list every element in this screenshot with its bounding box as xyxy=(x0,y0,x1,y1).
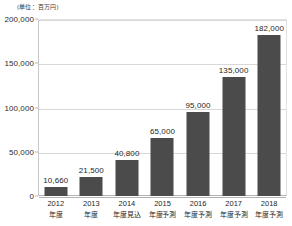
x-axis-tick-label: 2018年度予測 xyxy=(255,199,283,220)
bar[interactable] xyxy=(222,77,245,196)
x-axis-label-qualifier: 年度予測 xyxy=(255,210,283,221)
x-axis-label-qualifier: 年度予測 xyxy=(220,210,248,221)
x-axis-label-year: 2015 xyxy=(149,199,177,210)
unit-caption: (単位：百万円) xyxy=(17,2,59,11)
bar-slot: 182,000 xyxy=(251,19,287,196)
x-axis-label-year: 2018 xyxy=(255,199,283,210)
x-axis-tick-label: 2014年度見込 xyxy=(113,199,141,220)
bar[interactable] xyxy=(187,112,210,196)
bar-value-label: 10,660 xyxy=(43,176,68,185)
x-axis-label-year: 2014 xyxy=(113,199,141,210)
bar[interactable] xyxy=(258,35,281,196)
y-axis-tick-label: 200,000 xyxy=(4,15,34,24)
bar[interactable] xyxy=(80,177,103,196)
x-axis-label-year: 2013 xyxy=(83,199,100,210)
bars-layer: 10,66021,50040,80065,00095,000135,000182… xyxy=(38,19,287,196)
bar-value-label: 182,000 xyxy=(254,24,284,33)
bar-value-label: 95,000 xyxy=(186,101,211,110)
chart-screenshot: (単位：百万円) 050,000100,000150,000200,000 10… xyxy=(0,0,292,226)
bar-slot: 135,000 xyxy=(216,19,252,196)
x-axis-tick-label: 2016年度予測 xyxy=(184,199,212,220)
bar-value-label: 21,500 xyxy=(79,166,104,175)
x-axis-label-qualifier: 年度 xyxy=(47,210,64,221)
x-axis-label-year: 2012 xyxy=(47,199,64,210)
bar-value-label: 135,000 xyxy=(219,66,249,75)
bar-slot: 95,000 xyxy=(180,19,216,196)
x-axis-tick-label: 2012年度 xyxy=(47,199,64,220)
x-axis-tick-label: 2013年度 xyxy=(83,199,100,220)
bar[interactable] xyxy=(44,187,67,196)
x-axis-tick-label: 2015年度予測 xyxy=(149,199,177,220)
bar[interactable] xyxy=(115,160,138,196)
x-axis-label-year: 2017 xyxy=(220,199,248,210)
bar-value-label: 65,000 xyxy=(150,127,175,136)
bar-slot: 21,500 xyxy=(74,19,110,196)
x-axis-label-qualifier: 年度予測 xyxy=(149,210,177,221)
y-axis-tick-label: 0 xyxy=(29,192,34,201)
x-axis-label-qualifier: 年度見込 xyxy=(113,210,141,221)
bar-slot: 40,800 xyxy=(109,19,145,196)
x-axis: 2012年度2013年度2014年度見込2015年度予測2016年度予測2017… xyxy=(38,199,287,225)
bar-slot: 10,660 xyxy=(38,19,74,196)
gridline xyxy=(39,197,286,198)
x-axis-label-qualifier: 年度 xyxy=(83,210,100,221)
x-axis-tick-label: 2017年度予測 xyxy=(220,199,248,220)
x-axis-label-qualifier: 年度予測 xyxy=(184,210,212,221)
x-axis-label-year: 2016 xyxy=(184,199,212,210)
y-axis-tick-label: 150,000 xyxy=(4,59,34,68)
y-axis-tick-label: 100,000 xyxy=(4,103,34,112)
bar-slot: 65,000 xyxy=(145,19,181,196)
bar[interactable] xyxy=(151,138,174,196)
y-axis-tick-label: 50,000 xyxy=(9,147,34,156)
bar-value-label: 40,800 xyxy=(114,149,139,158)
